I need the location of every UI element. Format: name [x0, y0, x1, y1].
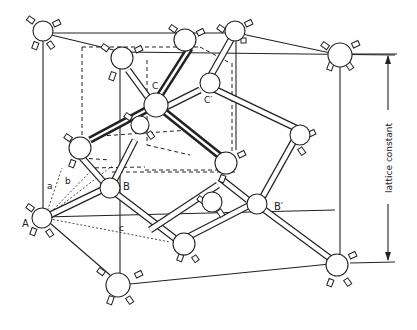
label-A: A [22, 218, 29, 229]
label-B-prime: B′ [274, 201, 284, 212]
arrow-down-icon [385, 252, 391, 261]
atom-corner-top-right [321, 40, 360, 70]
atom-lower-middle [173, 233, 199, 263]
lattice-constant-label: lattice constant [384, 123, 394, 194]
arrow-up-icon [385, 55, 391, 64]
label-b: b [65, 176, 71, 186]
atom-right-mid [290, 125, 316, 155]
label-a: a [47, 181, 53, 191]
lattice-constant-dimension: lattice constant [350, 54, 397, 263]
atom-corner-bottom-left [97, 268, 143, 305]
atom-top-upper-left [101, 44, 143, 81]
label-B: B [123, 181, 130, 192]
atom-C [144, 93, 168, 117]
atoms [26, 16, 360, 305]
atom-corner-top-mid [217, 19, 253, 43]
bonds [50, 38, 335, 262]
atom-behind-C [124, 113, 155, 140]
atom-corner-bottom-right [326, 251, 357, 286]
atom-A [26, 204, 54, 238]
atom-B [100, 178, 120, 198]
label-c: c [119, 223, 124, 233]
atom-right-inner [215, 150, 246, 182]
label-C: C [152, 81, 158, 91]
atom-B-prime [247, 194, 267, 214]
atom-C-prime [200, 73, 220, 93]
diamond-lattice-diagram: C C′ B B′ A a b c lattice constant [0, 0, 417, 330]
label-C-prime: C′ [204, 95, 212, 105]
